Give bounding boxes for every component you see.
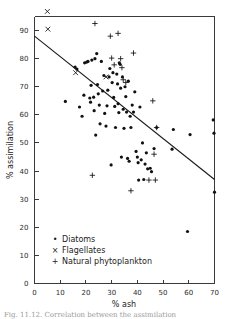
data-point-dot bbox=[89, 101, 92, 104]
data-point-dot bbox=[113, 105, 116, 108]
data-point-dot bbox=[98, 122, 101, 125]
data-point-dot bbox=[111, 71, 114, 74]
data-point-dot bbox=[186, 230, 189, 233]
data-point-dot bbox=[96, 83, 99, 86]
data-point-dot bbox=[137, 161, 140, 164]
data-point-dot bbox=[64, 100, 67, 103]
data-point-dot bbox=[88, 96, 91, 99]
data-point-dot bbox=[143, 162, 146, 165]
data-point-dot bbox=[142, 178, 145, 181]
y-tick-label: 0 bbox=[24, 280, 28, 288]
data-point-dot bbox=[126, 157, 129, 160]
data-point-dot bbox=[93, 57, 96, 60]
data-point-dot bbox=[138, 105, 141, 108]
data-point-dot bbox=[134, 150, 137, 153]
data-point-dot bbox=[141, 141, 144, 144]
data-point-dot bbox=[108, 67, 111, 70]
data-point-dot bbox=[213, 191, 216, 194]
data-point-dot bbox=[131, 103, 134, 106]
data-point-dot bbox=[212, 118, 215, 121]
legend-label-diatoms: Diatoms bbox=[62, 235, 95, 244]
data-point-dot bbox=[80, 115, 83, 118]
data-point-dot bbox=[115, 73, 118, 76]
x-tick-label: 0 bbox=[32, 289, 36, 297]
x-tick-label: 60 bbox=[184, 289, 193, 297]
y-axis-title: % assimilation bbox=[6, 121, 15, 179]
data-point-dot bbox=[114, 126, 117, 129]
data-point-dot bbox=[82, 94, 85, 97]
legend-glyph-natural-phytoplankton: + bbox=[52, 257, 59, 266]
legend-glyph-diatoms: • bbox=[53, 235, 58, 244]
scatter-plot-figure: 0102030405060708090 010203040506070 % as… bbox=[0, 0, 233, 319]
y-tick-label: 50 bbox=[20, 139, 29, 147]
data-point-dot bbox=[150, 170, 153, 173]
chart-canvas: 0102030405060708090 010203040506070 % as… bbox=[0, 0, 233, 319]
x-tick-label: 50 bbox=[159, 289, 168, 297]
data-point-dot bbox=[100, 60, 103, 63]
data-point-dot bbox=[136, 155, 139, 158]
data-point-dot bbox=[97, 92, 100, 95]
y-tick-label: 10 bbox=[20, 252, 29, 260]
x-tick-label: 20 bbox=[81, 289, 90, 297]
data-point-dot bbox=[111, 81, 114, 84]
data-point-dot bbox=[98, 103, 101, 106]
y-tick-label: 80 bbox=[20, 55, 29, 63]
x-tick-label: 40 bbox=[133, 289, 142, 297]
data-point-dot bbox=[129, 115, 132, 118]
y-tick-label: 30 bbox=[20, 196, 29, 204]
data-point-dot bbox=[122, 127, 125, 130]
y-tick-label: 60 bbox=[20, 111, 29, 119]
data-point-dot bbox=[116, 82, 119, 85]
data-point-dot bbox=[117, 111, 120, 114]
data-point-dot bbox=[107, 75, 110, 78]
data-point-dot bbox=[101, 89, 104, 92]
data-point-dot bbox=[120, 155, 123, 158]
data-point-dot bbox=[172, 128, 175, 131]
data-point-dot bbox=[125, 110, 128, 113]
figure-caption: Fig. 11.12. Correlation between the assi… bbox=[4, 311, 177, 319]
data-point-dot bbox=[78, 105, 81, 108]
x-tick-label: 70 bbox=[210, 289, 219, 297]
y-tick-label: 20 bbox=[20, 224, 29, 232]
data-point-dot bbox=[106, 89, 109, 92]
x-axis-title: % ash bbox=[112, 300, 136, 309]
data-point-dot bbox=[86, 60, 89, 63]
data-point-dot bbox=[119, 63, 122, 66]
data-point-dot bbox=[128, 160, 131, 163]
data-point-dot bbox=[89, 84, 92, 87]
data-point-dot bbox=[93, 109, 96, 112]
data-point-dot bbox=[212, 132, 215, 135]
data-point-dot bbox=[152, 147, 155, 150]
data-point-dot bbox=[123, 85, 126, 88]
x-tick-label: 10 bbox=[56, 289, 65, 297]
data-point-dot bbox=[110, 163, 113, 166]
data-point-dot bbox=[105, 104, 108, 107]
data-point-dot bbox=[133, 90, 136, 93]
data-point-dot bbox=[129, 126, 132, 129]
data-point-dot bbox=[140, 158, 143, 161]
data-point-dot bbox=[95, 52, 98, 55]
data-point-dot bbox=[116, 102, 119, 105]
data-point-dot bbox=[124, 95, 127, 98]
data-point-dot bbox=[188, 133, 191, 136]
legend-glyph-flagellates: × bbox=[52, 246, 59, 255]
data-point-dot bbox=[122, 108, 125, 111]
data-point-dot bbox=[103, 112, 106, 115]
data-point-dot bbox=[170, 148, 173, 151]
data-point-dot bbox=[104, 125, 107, 128]
legend-label-flagellates: Flagellates bbox=[62, 246, 105, 255]
data-point-dot bbox=[94, 134, 97, 137]
y-tick-label: 90 bbox=[20, 27, 29, 35]
data-point-dot bbox=[145, 151, 148, 154]
data-point-dot bbox=[92, 96, 95, 99]
data-point-dot bbox=[112, 96, 115, 99]
data-point-dot bbox=[75, 67, 78, 70]
data-point-dot bbox=[119, 87, 122, 90]
data-point-dot bbox=[149, 167, 152, 170]
y-tick-label: 70 bbox=[20, 83, 29, 91]
legend-label-natural-phytoplankton: Natural phytoplankton bbox=[62, 257, 152, 266]
data-point-dot bbox=[90, 58, 93, 61]
x-tick-label: 30 bbox=[107, 289, 116, 297]
y-tick-label: 40 bbox=[20, 168, 29, 176]
data-point-dot bbox=[132, 110, 135, 113]
